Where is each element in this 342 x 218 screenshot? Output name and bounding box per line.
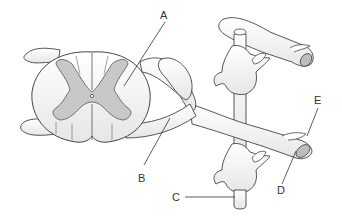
leader-line-e — [307, 108, 318, 136]
label-a: A — [160, 9, 168, 21]
label-b: B — [138, 172, 145, 184]
label-d: D — [277, 184, 285, 196]
spinal-nerve — [190, 104, 312, 160]
spinal-cord-cross-section — [21, 48, 151, 142]
lower-sympathetic-ganglion — [214, 143, 270, 192]
label-e: E — [314, 94, 321, 106]
spinal-cord-diagram: A B C D E — [0, 0, 342, 218]
central-canal — [90, 94, 93, 97]
label-c: C — [172, 191, 180, 203]
upper-sympathetic-ganglion — [214, 45, 270, 94]
